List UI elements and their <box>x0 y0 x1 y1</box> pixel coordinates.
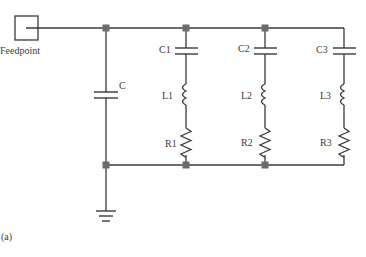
capacitor-c1-label: C1 <box>159 44 171 55</box>
capacitor-c-label: C <box>119 80 126 91</box>
feedpoint-label: Feedpoint <box>0 45 40 56</box>
inductor-l3-icon <box>341 84 345 105</box>
panel-label: (a) <box>1 231 12 243</box>
junction-node <box>103 162 110 169</box>
junction-node <box>262 25 269 32</box>
inductor-l2-icon <box>262 84 266 105</box>
inductor-l1-label: L1 <box>162 90 173 101</box>
resistor-r2-icon <box>260 128 270 158</box>
junction-node <box>103 25 110 32</box>
resistor-r3-icon <box>339 128 349 158</box>
capacitor-c2-label: C2 <box>238 43 250 54</box>
inductor-l1-icon <box>183 84 187 105</box>
circuit-diagram: Feedpoint C C1 L1 R1 <box>0 0 366 257</box>
inductor-l2-label: L2 <box>241 90 252 101</box>
shunt-capacitor-branch: C <box>94 28 126 211</box>
ground-icon <box>96 211 116 221</box>
branch-3: C3 L3 R3 <box>316 28 356 165</box>
capacitor-c3-label: C3 <box>316 44 328 55</box>
resistor-r3-label: R3 <box>320 137 332 148</box>
resistor-r2-label: R2 <box>241 137 253 148</box>
resistor-r1-icon <box>181 128 191 158</box>
inductor-l3-label: L3 <box>320 90 331 101</box>
branch-2: C2 L2 R2 <box>238 28 277 165</box>
junction-node <box>262 162 269 169</box>
resistor-r1-label: R1 <box>165 138 177 149</box>
junction-node <box>183 25 190 32</box>
junction-node <box>183 162 190 169</box>
branch-1: C1 L1 R1 <box>159 28 198 165</box>
